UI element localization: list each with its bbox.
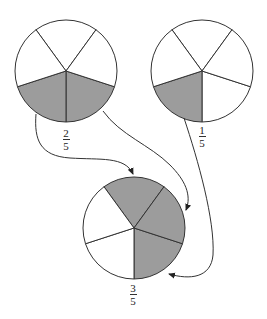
fraction-label-right: 1 5 [192, 125, 212, 148]
pie-circle-right [151, 20, 253, 122]
denominator: 5 [192, 138, 212, 148]
numerator: 2 [56, 128, 76, 138]
fraction-addition-diagram [0, 0, 267, 319]
numerator: 3 [123, 283, 143, 293]
denominator: 5 [56, 141, 76, 151]
fraction-label-left: 2 5 [56, 128, 76, 151]
numerator: 1 [192, 125, 212, 135]
denominator: 5 [123, 296, 143, 306]
fraction-label-sum: 3 5 [123, 283, 143, 306]
pie-circle-left [15, 20, 117, 122]
pie-circle-sum [83, 177, 185, 279]
arrow-left-to-sum-top [36, 114, 133, 174]
